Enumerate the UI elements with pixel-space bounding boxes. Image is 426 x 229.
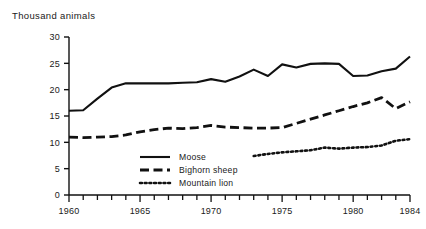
chart-legend: MooseBighorn sheepMountain lion [140,152,238,188]
legend-label-moose: Moose [179,152,206,162]
y-tick-label: 0 [55,190,60,200]
y-tick-label: 15 [50,111,60,121]
series-lines [69,56,410,156]
legend-label-bighorn-sheep: Bighorn sheep [179,165,238,175]
x-tick-label: 1965 [130,206,151,216]
y-axis: 051015202530 [50,32,69,200]
series-line-mountain-lion [254,139,410,156]
legend-label-mountain-lion: Mountain lion [179,178,233,188]
y-tick-label: 20 [50,85,60,95]
x-tick-label: 1980 [343,206,364,216]
series-line-moose [69,56,410,110]
y-tick-label: 10 [50,138,60,148]
x-tick-label: 1975 [272,206,293,216]
y-tick-label: 5 [55,164,60,174]
x-axis: 196019651970197519801984 [59,195,421,216]
x-tick-label: 1970 [201,206,222,216]
x-tick-label: 1984 [400,206,421,216]
y-tick-label: 30 [50,32,60,42]
line-chart: Thousand animals 051015202530 1960196519… [0,0,426,229]
chart-plot-area: 051015202530 196019651970197519801984 Mo… [0,0,426,229]
y-tick-label: 25 [50,59,60,69]
x-tick-label: 1960 [59,206,80,216]
series-line-bighorn-sheep [69,98,410,138]
